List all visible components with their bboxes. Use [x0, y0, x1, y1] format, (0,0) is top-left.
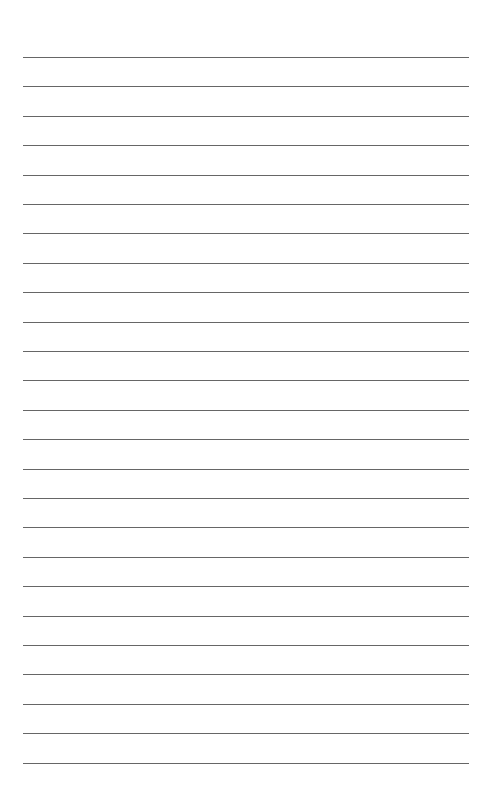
- ruled-line: [23, 704, 469, 706]
- ruled-line: [23, 645, 469, 647]
- ruled-line: [23, 322, 469, 324]
- ruled-line: [23, 175, 469, 177]
- ruled-line: [23, 263, 469, 265]
- ruled-line: [23, 57, 469, 59]
- ruled-line: [23, 527, 469, 529]
- ruled-line: [23, 292, 469, 294]
- ruled-line: [23, 145, 469, 147]
- ruled-line: [23, 410, 469, 412]
- ruled-line: [23, 439, 469, 441]
- ruled-line: [23, 498, 469, 500]
- ruled-line: [23, 763, 469, 765]
- ruled-line: [23, 233, 469, 235]
- ruled-line: [23, 586, 469, 588]
- ruled-line: [23, 380, 469, 382]
- ruled-line: [23, 351, 469, 353]
- ruled-line: [23, 674, 469, 676]
- ruled-line: [23, 733, 469, 735]
- ruled-line: [23, 116, 469, 118]
- ruled-line: [23, 616, 469, 618]
- ruled-line: [23, 469, 469, 471]
- ruled-line: [23, 204, 469, 206]
- ruled-line: [23, 86, 469, 88]
- ruled-line: [23, 557, 469, 559]
- lined-paper-page: [0, 0, 493, 811]
